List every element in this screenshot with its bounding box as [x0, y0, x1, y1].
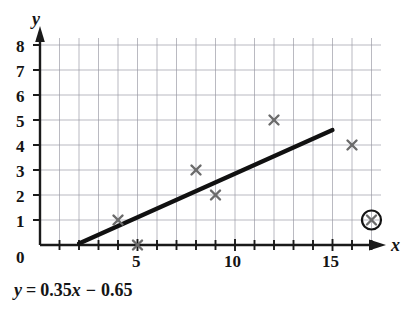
- y-tick-label-7: 7: [16, 63, 25, 80]
- x-axis-label: x: [391, 236, 400, 254]
- grid-lines: [40, 38, 381, 245]
- grid-vertical-lines: [60, 38, 372, 245]
- y-tick-label-4: 4: [16, 138, 25, 155]
- equation-equals: =: [26, 280, 36, 300]
- y-tick-label-2: 2: [16, 188, 25, 205]
- origin-label: 0: [16, 249, 25, 266]
- y-tick-label-1: 1: [16, 213, 25, 230]
- axes: [35, 26, 386, 251]
- best-fit-equation: y=0.35x−0.65: [14, 281, 133, 299]
- y-tick-label-8: 8: [16, 38, 25, 55]
- scatter-plot-figure: 8 7 6 5 4 3 2 1 0 5 10 15 y x y=0.35x−0.…: [0, 0, 406, 314]
- equation-lhs: y: [14, 280, 22, 300]
- equation-variable: x: [72, 280, 81, 300]
- line-of-best-fit: [79, 130, 333, 244]
- y-tick-label-5: 5: [16, 113, 25, 130]
- equation-slope: 0.35: [40, 280, 72, 300]
- x-tick-label-10: 10: [224, 253, 241, 270]
- data-point-markers: [114, 116, 377, 250]
- equation-minus: −: [86, 280, 96, 300]
- y-tick-label-3: 3: [16, 163, 25, 180]
- x-tick-label-5: 5: [132, 253, 141, 270]
- x-tick-label-15: 15: [322, 253, 339, 270]
- plot-canvas: [0, 0, 406, 314]
- equation-intercept: 0.65: [101, 280, 133, 300]
- y-axis-label: y: [32, 10, 40, 28]
- y-tick-label-6: 6: [16, 88, 25, 105]
